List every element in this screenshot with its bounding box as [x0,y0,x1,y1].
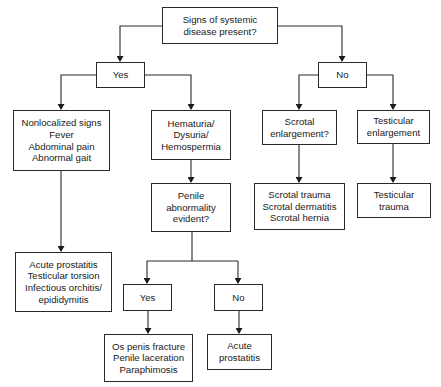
node-text: Yes [113,69,129,81]
node-text: Hematuria/ [168,118,215,130]
node-text: No [336,69,348,81]
node-text: Infectious orchitis/ [25,282,102,294]
node-text: epididymitis [38,294,88,306]
node-text: Acute prostatitis [29,259,97,271]
node-text: Hemospermia [161,141,221,153]
node-systemic-diagnoses: Acute prostatitis Testicular torsion Inf… [15,252,112,312]
node-text: Scrotal dermatitis [262,201,336,213]
node-text: Scrotal hernia [270,212,329,224]
node-text: prostatitis [219,352,260,364]
node-scrotal-diagnoses: Scrotal trauma Scrotal dermatitis Scrota… [254,183,345,230]
node-text: abnormality [166,202,216,214]
node-text: Nonlocalized signs [22,117,102,129]
node-text: Penile [178,190,205,202]
node-text: disease present? [183,26,256,38]
node-text: trauma [379,201,409,213]
node-nonlocalized-signs: Nonlocalized signs Fever Abdominal pain … [13,110,110,171]
node-testicular-trauma: Testicular trauma [357,183,431,218]
node-systemic-disease-question: Signs of systemic disease present? [162,7,278,44]
node-text: No [232,292,244,304]
node-text: Testicular [374,189,415,201]
node-text: Penile laceration [113,352,184,364]
node-text: Scrotal [285,116,315,128]
node-acute-prostatitis: Acute prostatitis [207,334,272,370]
node-text: Signs of systemic [183,14,258,26]
node-text: enlargement? [270,128,329,140]
node-text: Fever [49,129,74,141]
node-penile-diagnoses: Os penis fracture Penile laceration Para… [104,334,193,382]
node-text: enlargement [367,127,420,139]
node-scrotal-enlargement-question: Scrotal enlargement? [262,110,337,145]
node-text: Testicular [373,115,414,127]
node-text: Abdominal pain [28,141,94,153]
node-text: Acute [227,340,252,352]
node-text: Paraphimosis [119,364,177,376]
node-text: Abnormal gait [32,152,91,164]
node-text: Os penis fracture [112,341,185,353]
node-testicular-enlargement: Testicular enlargement [357,110,430,144]
node-text: Testicular torsion [28,270,100,282]
node-text: Scrotal trauma [268,189,330,201]
node-no-penile: No [214,284,263,311]
node-yes-systemic: Yes [96,62,145,88]
node-text: Yes [140,292,156,304]
node-yes-penile: Yes [123,284,172,311]
node-text: evident? [173,213,209,225]
node-no-systemic: No [318,62,367,88]
node-text: Dysuria/ [173,129,208,141]
node-hematuria-dysuria-hemospermia: Hematuria/ Dysuria/ Hemospermia [151,110,231,160]
node-penile-abnormality-question: Penile abnormality evident? [151,183,231,232]
